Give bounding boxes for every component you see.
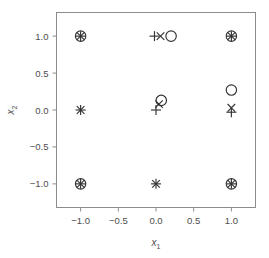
x-tick-label: 0.0 <box>149 215 162 226</box>
y-tick-label: 0.0 <box>35 105 48 116</box>
y-tick-label: −0.5 <box>30 141 49 152</box>
x-tick-label: −1.0 <box>71 215 90 226</box>
x-tick-label: −0.5 <box>109 215 128 226</box>
x-tick-label: 0.5 <box>187 215 200 226</box>
plot-canvas: −1.0−0.50.00.51.0 1.00.50.0−0.5−1.0 x1 x… <box>0 0 269 258</box>
y-tick-label: 1.0 <box>35 31 48 42</box>
scatter-plot-figure: −1.0−0.50.00.51.0 1.00.50.0−0.5−1.0 x1 x… <box>0 0 269 258</box>
y-tick-label: −1.0 <box>30 178 49 189</box>
x-tick-label: 1.0 <box>225 215 238 226</box>
y-tick-label: 0.5 <box>35 68 48 79</box>
